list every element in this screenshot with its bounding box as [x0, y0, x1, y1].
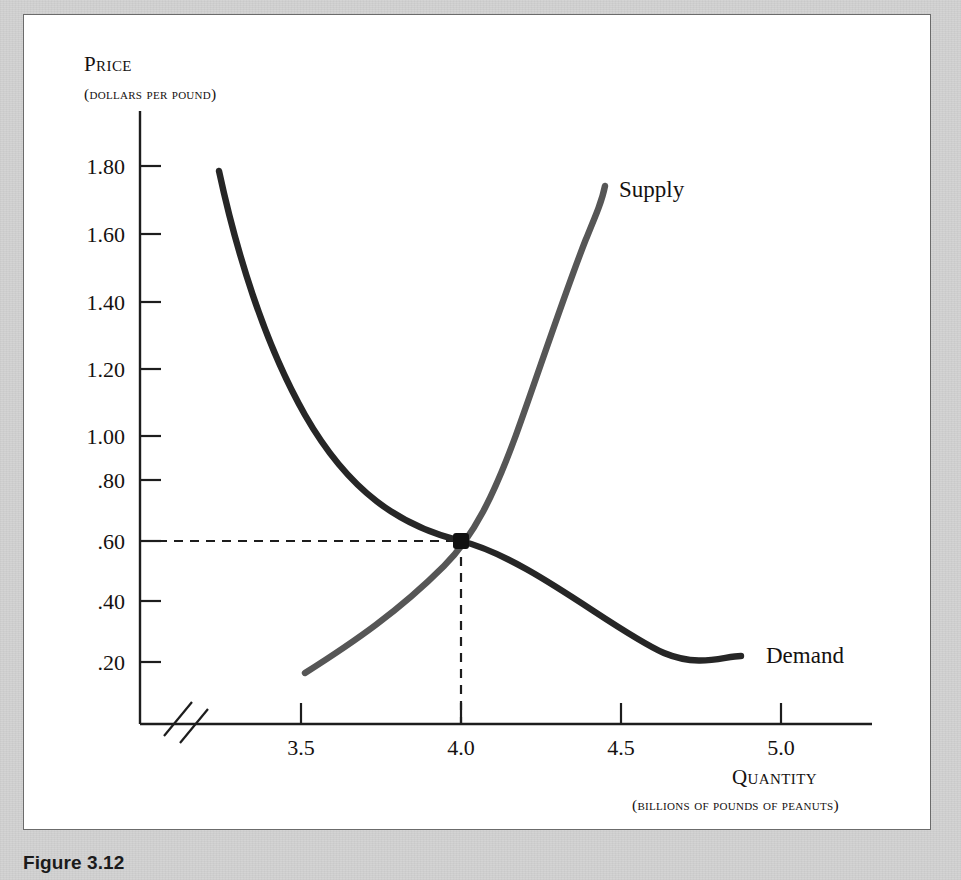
supply-curve-label: Supply — [619, 177, 685, 202]
figure-container: Price (dollars per pound) Quantity (bill… — [0, 0, 961, 880]
x-tick-label: 5.0 — [767, 735, 795, 760]
x-tick-label: 4.0 — [447, 735, 475, 760]
y-axis-ticks: 1.80 1.60 1.40 1.20 1.00 .80 .60 — [87, 154, 162, 675]
axis-break-icon — [164, 702, 208, 743]
x-tick-label: 3.5 — [287, 735, 315, 760]
y-tick-label: 1.60 — [87, 222, 126, 247]
demand-curve — [219, 171, 741, 661]
figure-caption: Figure 3.12 — [23, 852, 124, 874]
y-tick-label: 1.20 — [87, 357, 126, 382]
y-tick-label: .60 — [98, 529, 126, 554]
y-tick-label: 1.40 — [87, 290, 126, 315]
y-tick-label: 1.00 — [87, 424, 126, 449]
x-axis-ticks: 3.5 4.0 4.5 5.0 — [287, 703, 795, 760]
chart-panel: Price (dollars per pound) Quantity (bill… — [23, 14, 931, 830]
x-tick-label: 4.5 — [607, 735, 635, 760]
equilibrium-marker — [453, 533, 469, 549]
y-tick-label: .20 — [98, 650, 126, 675]
y-axis-subtitle: (dollars per pound) — [84, 85, 217, 103]
y-axis-title: Price — [84, 52, 132, 76]
x-axis-subtitle: (billions of pounds of peanuts) — [632, 796, 839, 814]
y-tick-label: .80 — [98, 468, 126, 493]
supply-demand-chart: Price (dollars per pound) Quantity (bill… — [24, 15, 931, 830]
y-tick-label: 1.80 — [87, 154, 126, 179]
y-tick-label: .40 — [98, 589, 126, 614]
x-axis-title: Quantity — [732, 765, 817, 789]
demand-curve-label: Demand — [766, 643, 844, 668]
supply-curve — [305, 186, 605, 673]
